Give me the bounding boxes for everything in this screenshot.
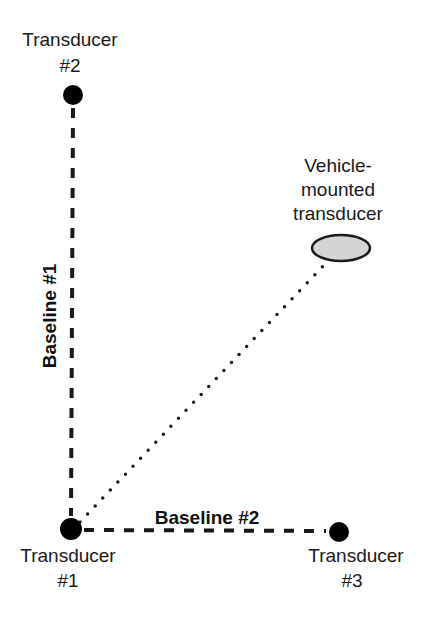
- vehicle-transducer-ellipse-icon: [312, 235, 370, 261]
- transducer-1-label-line2: #1: [57, 570, 78, 591]
- baseline-1-label: Baseline #1: [39, 263, 60, 368]
- transducer-2-label-line1: Transducer: [22, 29, 118, 50]
- transducer-1-node-icon: [60, 518, 82, 540]
- transducer-3-label-line2: #3: [341, 570, 362, 591]
- transducer-3-label-line1: Transducer: [308, 545, 404, 566]
- vehicle-label-line3: transducer: [293, 203, 383, 224]
- vehicle-label-line2: mounted: [301, 179, 375, 200]
- vehicle-label-line1: Vehicle-: [304, 155, 372, 176]
- transducer-1-label-line1: Transducer: [20, 545, 116, 566]
- baseline-2-label: Baseline #2: [155, 507, 260, 528]
- transducer-3-node-icon: [329, 522, 349, 542]
- range-dotted-line: [80, 264, 325, 522]
- baseline-2-line: [84, 530, 326, 531]
- transducer-2-node-icon: [63, 85, 83, 105]
- baseline-1-line: [71, 108, 73, 516]
- transducer-2-label-line2: #2: [59, 55, 80, 76]
- lbl-diagram: Transducer #2 Vehicle- mounted transduce…: [0, 0, 431, 628]
